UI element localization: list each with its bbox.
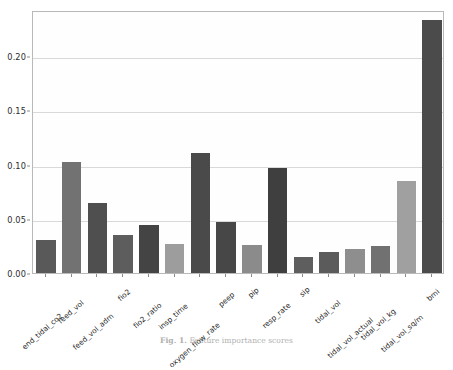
x-tick-label: fio2 [116, 287, 132, 303]
y-tick-label: 0.15 [7, 106, 26, 116]
x-tick-mark [251, 274, 252, 277]
x-tick-label: feed_vol_adm [71, 312, 115, 352]
bar-series [33, 12, 443, 273]
bar-feed_vol_adm [88, 203, 108, 273]
bar-bmi [422, 20, 442, 273]
y-tick-mark [27, 165, 30, 166]
x-tick-label: resp_rate [260, 301, 292, 331]
x-tick-mark [380, 274, 381, 277]
x-tick-mark [354, 274, 355, 277]
bar-fio2 [113, 235, 133, 273]
x-tick-mark [225, 274, 226, 277]
y-tick-mark [27, 57, 30, 58]
x-tick-mark [328, 274, 329, 277]
caption-text: Feature importance scores [190, 336, 293, 345]
y-tick-label: 0.20 [7, 52, 26, 62]
y-axis: 0.000.050.100.150.20 [0, 11, 30, 274]
bar-end_tidal_co2 [36, 240, 56, 273]
x-tick-label: sip [298, 285, 312, 299]
bar-fio2_ratio [139, 225, 159, 273]
x-tick-mark [431, 274, 432, 277]
x-tick-label: peep [217, 290, 237, 309]
bar-sip [294, 257, 314, 273]
x-tick-mark [174, 274, 175, 277]
caption-label: Fig. 1. [160, 336, 189, 345]
figure-caption: Fig. 1. Feature importance scores [0, 336, 453, 345]
bar-peep [216, 222, 236, 274]
x-tick-label: bmi [425, 287, 441, 303]
x-tick-mark [277, 274, 278, 277]
bar-tidal_vol_actual [345, 249, 365, 273]
plot-area [32, 11, 444, 274]
bar-tidal_vol [319, 252, 339, 273]
y-tick-mark [27, 219, 30, 220]
bar-resp_rate [268, 168, 288, 273]
bar-insp_time [165, 244, 185, 273]
bar-tidal_vol_sq/m [397, 181, 417, 274]
bar-tidal_vol_kg [371, 246, 391, 273]
x-tick-label: tidal_vol [313, 298, 342, 325]
y-tick-mark [27, 111, 30, 112]
bar-oxygen_flow_rate [191, 153, 211, 273]
x-tick-mark [302, 274, 303, 277]
x-tick-label: feed_vol [56, 298, 85, 325]
x-tick-mark [199, 274, 200, 277]
y-tick-mark [27, 274, 30, 275]
bar-feed_vol [62, 162, 82, 273]
x-tick-mark [45, 274, 46, 277]
x-tick-mark [405, 274, 406, 277]
y-tick-label: 0.10 [7, 161, 26, 171]
bar-pip [242, 245, 262, 273]
x-tick-mark [96, 274, 97, 277]
y-tick-label: 0.05 [7, 215, 26, 225]
x-tick-label: pip [246, 286, 261, 300]
x-tick-mark [122, 274, 123, 277]
x-tick-mark [148, 274, 149, 277]
x-tick-mark [71, 274, 72, 277]
x-axis: end_tidal_co2feed_volfeed_vol_admfio2fio… [32, 274, 444, 332]
y-tick-label: 0.00 [7, 269, 26, 279]
